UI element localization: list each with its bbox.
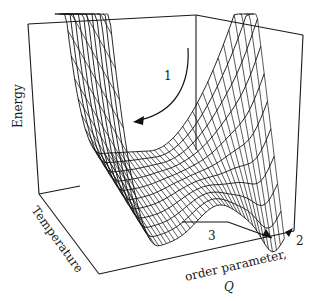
energy-surface-figure: Energy Temperature order parameter, Q 1 … xyxy=(0,0,319,301)
axis-label-order-parameter: order parameter, xyxy=(184,247,288,284)
annotation-2: 2 xyxy=(296,234,304,248)
path-arrow-3 xyxy=(182,222,293,238)
path-arrow-1 xyxy=(133,48,188,125)
axis-label-q: Q xyxy=(224,280,234,294)
annotation-1: 1 xyxy=(164,69,172,83)
annotation-3: 3 xyxy=(208,229,216,243)
axis-label-energy: Energy xyxy=(11,84,25,128)
axis-label-temperature: Temperature xyxy=(29,204,87,276)
